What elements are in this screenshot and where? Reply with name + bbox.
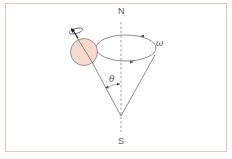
north-label: N: [118, 7, 125, 16]
precession-orbit: [96, 35, 156, 61]
nucleus-sphere: [71, 39, 98, 66]
precession-diagram: [0, 0, 232, 159]
cone-left-edge: [92, 62, 121, 116]
theta-label: θ: [109, 75, 114, 84]
south-label: S: [118, 137, 124, 146]
theta-arrow-right: [117, 83, 120, 86]
cone-right-edge: [121, 55, 155, 116]
omega-label: ω: [156, 39, 163, 48]
